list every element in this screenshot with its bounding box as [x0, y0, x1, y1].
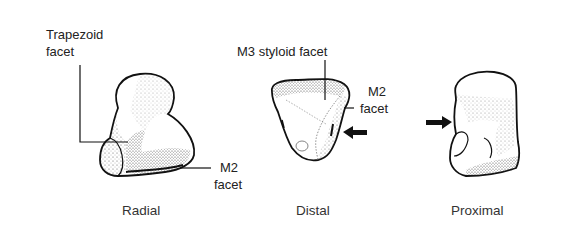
- distal-m2-facet-label-line2: facet: [360, 101, 388, 116]
- distal-view-caption: Distal: [296, 203, 330, 218]
- m3-styloid-facet-label: M3 styloid facet: [237, 44, 327, 59]
- radial-m2-facet-label-line2: facet: [214, 177, 242, 192]
- trapezoid-facet-label-line1: Trapezoid: [46, 27, 103, 42]
- distal-view-bone: [272, 79, 350, 160]
- radial-view-caption: Radial: [122, 203, 160, 218]
- proximal-view-caption: Proximal: [451, 203, 504, 218]
- distal-arrow-left-icon: [343, 126, 367, 139]
- radial-m2-facet-label-line1: M2: [220, 160, 238, 175]
- proximal-arrow-right-icon: [426, 116, 452, 129]
- proximal-view-bone: [450, 72, 519, 176]
- distal-m2-facet-label-line1: M2: [368, 84, 386, 99]
- trapezoid-facet-label-line2: facet: [46, 44, 74, 59]
- radial-view-bone: [100, 74, 194, 176]
